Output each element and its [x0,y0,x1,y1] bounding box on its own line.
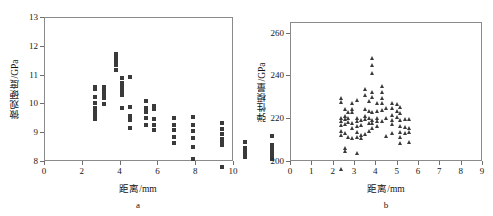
data-point [363,93,367,97]
data-point [220,121,224,125]
data-point [144,106,148,110]
x-tick-label: 9 [480,167,485,176]
data-point [398,141,402,145]
x-tick [311,161,312,165]
x-tick [375,161,376,165]
y-tick [40,103,44,104]
data-point [191,115,195,119]
y-tick [286,161,290,162]
data-point [398,135,402,139]
y-tick [40,161,44,162]
y-tick [40,132,44,133]
data-point [407,130,411,134]
data-point [102,102,106,106]
y-tick-label: 240 [256,71,284,80]
data-point [114,63,118,67]
data-point [339,167,343,171]
y-tick-label: 11 [10,70,38,79]
x-tick-label: 0 [288,167,293,176]
data-point [93,101,97,105]
y-tick-label: 220 [256,114,284,123]
data-point [128,118,132,122]
x-tick-label: 8 [458,167,463,176]
data-point [220,127,224,131]
data-point [93,95,97,99]
data-point [144,110,148,114]
data-point [93,117,97,121]
data-point [339,100,343,104]
data-point [172,135,176,139]
data-point [384,134,388,138]
x-tick-label: 3 [352,167,357,176]
data-point [355,151,359,155]
data-point [152,128,156,132]
data-point [172,116,176,120]
plot-area-b [290,22,482,161]
x-tick [461,161,462,165]
x-tick [233,161,234,165]
data-point [359,136,363,140]
x-tick-label: 4 [373,167,378,176]
data-point [220,143,224,147]
x-tick-label: 8 [193,167,198,176]
data-point [191,136,195,140]
panel-b: 距离/mm 弹性模量/GPa b 0123456789200220240260 [246,0,493,216]
data-point [370,71,374,75]
y-tick [286,75,290,76]
y-tick [286,118,290,119]
y-tick-label: 8 [10,157,38,166]
data-point [191,123,195,127]
data-point [390,131,394,135]
y-tick [286,33,290,34]
data-point [359,123,363,127]
x-tick-label: 10 [229,167,238,176]
y-tick [40,17,44,18]
data-point [384,106,388,110]
data-point [398,118,402,122]
x-tick-label: 5 [394,167,399,176]
data-point [380,90,384,94]
data-point [144,123,148,127]
data-point [375,124,379,128]
x-tick [354,161,355,165]
data-point [390,101,394,105]
data-point [350,110,354,114]
data-point [172,141,176,145]
data-point [398,111,402,115]
y-tick-label: 10 [10,99,38,108]
y-tick [40,46,44,47]
data-point [191,145,195,149]
data-point [220,165,224,169]
x-tick [439,161,440,165]
data-point [370,63,374,67]
data-point [363,87,367,91]
x-tick-label: 0 [42,167,47,176]
scatter-figure: 距离/mm 微观硬度/GPa a 02468108910111213 距离/mm… [0,0,493,216]
data-point [93,87,97,91]
data-point [375,109,379,113]
data-point [384,116,388,120]
data-point [370,90,374,94]
x-tick-label: 2 [80,167,85,176]
y-tick-label: 13 [10,13,38,22]
data-point [398,105,402,109]
data-point [128,126,132,130]
y-tick [40,75,44,76]
x-tick-label: 4 [117,167,122,176]
data-point [398,124,402,128]
x-tick-label: 2 [330,167,335,176]
data-point [380,101,384,105]
data-point [120,106,124,110]
x-tick [44,161,45,165]
y-tick-label: 200 [256,157,284,166]
x-tick [482,161,483,165]
data-point [390,106,394,110]
x-axis-title-a: 距离/mm [119,184,156,195]
data-point [144,99,148,103]
data-point [370,95,374,99]
data-point [102,96,106,100]
data-point [398,130,402,134]
data-point [370,56,374,60]
panel-letter-a: a [136,200,140,210]
data-point [128,105,132,109]
